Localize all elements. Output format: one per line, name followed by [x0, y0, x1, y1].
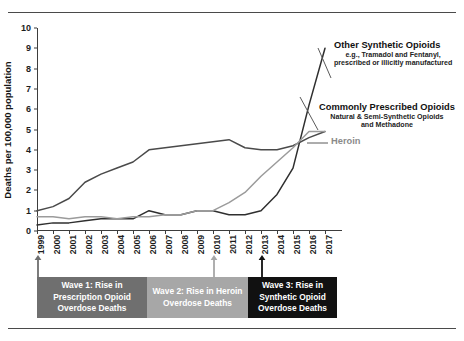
annotation-commonly-prescribed-opioids: Commonly Prescribed Opioids Natural & Se… [319, 102, 455, 130]
wave-label-line-2: Overdose Deaths [163, 298, 232, 308]
annotation-heroin: Heroin [331, 136, 360, 147]
annotation-subtitle-line-1: Natural & Semi-Synthetic Opioids [319, 113, 455, 121]
wave-label-line-3: Overdose Deaths [258, 303, 327, 313]
wave-bar-2: Wave 2: Rise in Heroin Overdose Deaths [147, 277, 248, 318]
wave-label-line-1: Wave 2: Rise in Heroin [153, 286, 243, 296]
wave-marker-arrow-2013 [258, 255, 266, 277]
annotation-subtitle-line-1: e.g., Tramadol and Fentanyl, [334, 51, 452, 59]
wave-bars: Wave 1: Rise in Prescription Opioid Over… [37, 277, 337, 318]
wave-bar-3: Wave 3: Rise in Synthetic Opioid Overdos… [248, 277, 337, 318]
wave-marker-arrow-2010 [210, 255, 218, 277]
annotation-title: Heroin [331, 136, 360, 147]
wave-label-line-2: Prescription Opioid [53, 292, 131, 302]
annotation-subtitle-line-2: prescribed or illicitly manufactured [334, 59, 452, 67]
wave-label-line-1: Wave 3: Rise in [262, 280, 323, 290]
wave-bar-1: Wave 1: Rise in Prescription Opioid Over… [37, 277, 147, 318]
chart-figure: Deaths per 100,000 population 0123456789… [0, 0, 464, 341]
wave-label-line-3: Overdose Deaths [58, 303, 127, 313]
wave-label-line-1: Wave 1: Rise in [61, 280, 122, 290]
annotation-title: Commonly Prescribed Opioids [319, 102, 455, 113]
wave-marker-arrow-1999 [34, 255, 42, 277]
annotation-other-synthetic-opioids: Other Synthetic Opioids e.g., Tramadol a… [334, 40, 452, 68]
annotation-title: Other Synthetic Opioids [334, 40, 452, 51]
wave-label-line-2: Synthetic Opioid [259, 292, 326, 302]
annotation-subtitle-line-2: and Methadone [319, 121, 455, 129]
